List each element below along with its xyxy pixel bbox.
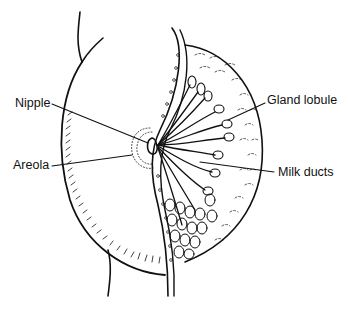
gland-lobule-label: Gland lobule <box>267 94 337 107</box>
nipple-label: Nipple <box>15 97 50 110</box>
nipple-leader-line <box>52 104 148 143</box>
areola-label: Areola <box>13 159 49 172</box>
gland-lobule-leader-line <box>228 103 265 120</box>
nipple-shape <box>148 138 158 154</box>
gland-lobules <box>188 76 234 195</box>
skin-shading <box>66 112 160 263</box>
body-outline-upper <box>78 12 82 62</box>
areola-leader-line <box>52 155 132 166</box>
areola-texture <box>132 128 153 168</box>
milk-ducts-label: Milk ducts <box>278 166 334 179</box>
body-outline-branch <box>82 38 103 62</box>
body-outline-lower <box>108 250 110 296</box>
breast-anatomy-diagram <box>0 0 349 309</box>
